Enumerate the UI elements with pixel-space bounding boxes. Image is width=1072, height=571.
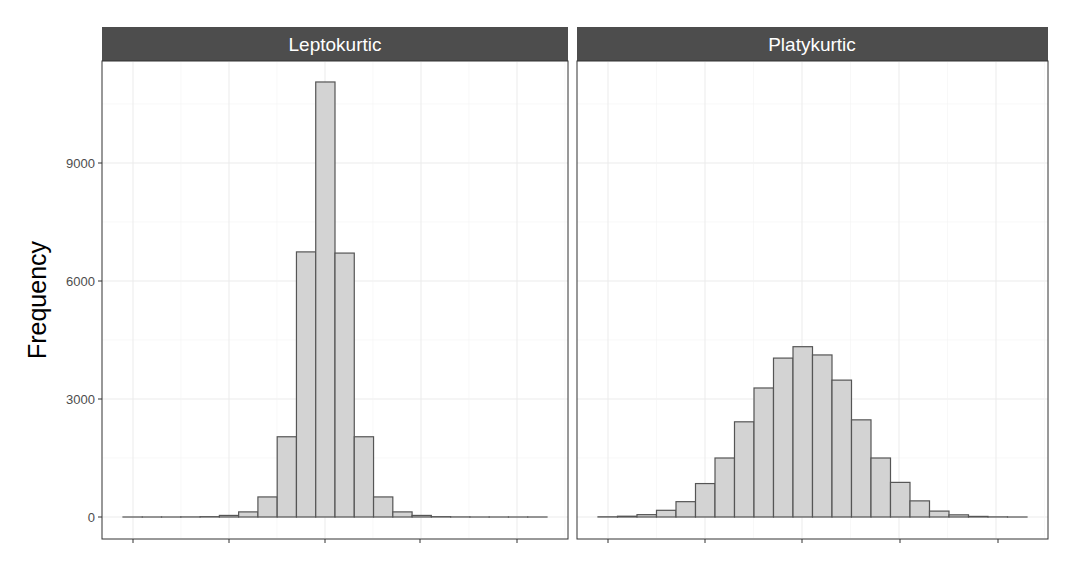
- histogram-bar: [832, 380, 852, 517]
- panel-platykurtic: Platykurtic: [577, 27, 1048, 543]
- bars-platykurtic: [598, 347, 1027, 517]
- histogram-bar: [735, 422, 755, 517]
- histogram-bar: [676, 502, 696, 517]
- bars-leptokurtic: [123, 82, 547, 517]
- y-tick-label: 0: [88, 510, 95, 525]
- histogram-bar: [910, 501, 930, 517]
- y-tick-label: 9000: [66, 156, 95, 171]
- histogram-bar: [949, 515, 969, 517]
- histogram-bar: [354, 437, 373, 517]
- histogram-bar: [316, 82, 335, 517]
- histogram-bar: [930, 511, 950, 517]
- x-axis-ticks-right: [608, 539, 998, 543]
- histogram-bar: [774, 358, 794, 517]
- histogram-bar: [637, 515, 657, 517]
- histogram-bar: [335, 253, 354, 517]
- histogram-bar: [813, 355, 833, 517]
- histogram-bar: [871, 458, 891, 517]
- x-axis-ticks-left: [133, 539, 517, 543]
- histogram-bar: [696, 484, 716, 517]
- panel-leptokurtic: Leptokurtic 0300060009000: [66, 27, 568, 543]
- histogram-bar: [969, 516, 989, 517]
- histogram-bar: [412, 515, 431, 517]
- histogram-bar: [715, 458, 735, 517]
- strip-title-platykurtic: Platykurtic: [768, 34, 856, 55]
- histogram-bar: [258, 497, 277, 517]
- histogram-bar: [618, 516, 638, 517]
- y-tick-label: 6000: [66, 274, 95, 289]
- y-tick-label: 3000: [66, 392, 95, 407]
- histogram-bar: [891, 482, 911, 517]
- histogram-bar: [277, 437, 296, 517]
- y-axis-title: Frequency: [23, 240, 51, 359]
- histogram-bar: [239, 512, 258, 517]
- histogram-bar: [393, 512, 412, 517]
- histogram-bar: [754, 388, 774, 517]
- histogram-bar: [296, 252, 315, 517]
- y-axis-ticks: 0300060009000: [66, 156, 102, 525]
- histogram-bar: [793, 347, 813, 517]
- histogram-bar: [852, 420, 872, 517]
- histogram-bar: [657, 510, 677, 517]
- histogram-chart: Frequency Leptokurtic 0300060009000 Plat…: [0, 0, 1072, 571]
- strip-title-leptokurtic: Leptokurtic: [289, 34, 382, 55]
- histogram-bar: [374, 497, 393, 517]
- histogram-bar: [219, 515, 238, 517]
